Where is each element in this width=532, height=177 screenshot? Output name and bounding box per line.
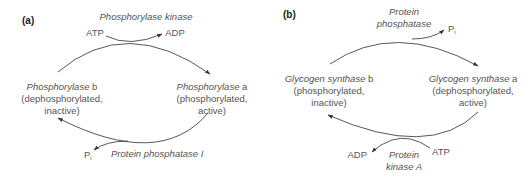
deactivation-arrow — [58, 113, 208, 143]
glycogen-synthase-b-state: (phosphorylated, — [294, 85, 365, 96]
atp-adp-arrow — [106, 34, 162, 42]
activation-arrow-b — [330, 42, 478, 66]
atp-label-a: ATP — [86, 27, 104, 38]
pi-label-b: Pi — [448, 23, 456, 35]
protein-kinase-a-label-line1: Protein — [389, 149, 419, 160]
panel-b-label: (b) — [283, 9, 296, 20]
phosphorylase-b-activity: inactive) — [44, 105, 79, 116]
glycogen-synthase-a-activity: active) — [459, 97, 487, 108]
panel-a: (a) Phosphorylase kinase ATP ADP Phospho… — [21, 11, 248, 161]
protein-phosphatase-label-line1: Protein — [389, 6, 419, 17]
diagram-stage: (a) Phosphorylase kinase ATP ADP Phospho… — [0, 0, 532, 177]
adp-label-a: ADP — [165, 27, 185, 38]
phosphorylase-kinase-label: Phosphorylase kinase — [100, 11, 193, 22]
panel-a-label: (a) — [22, 15, 34, 26]
pi-release-arrow-b — [412, 30, 444, 39]
phosphorylase-a-name: Phosphorylase a — [177, 81, 248, 92]
glycogen-regulation-diagram: (a) Phosphorylase kinase ATP ADP Phospho… — [0, 0, 532, 177]
glycogen-synthase-b-name: Glycogen synthase b — [285, 73, 374, 84]
phosphorylase-a-state: (phosphorylated, — [177, 93, 248, 104]
protein-phosphatase-label-line2: phosphatase — [376, 18, 431, 29]
phosphorylase-b-name: Phosphorylase b — [27, 81, 98, 92]
glycogen-synthase-a-name: Glycogen synthase a — [429, 73, 518, 84]
phosphorylase-b-state: (dephosphorylated, — [21, 93, 102, 104]
protein-kinase-a-label-line2: kinase A — [386, 161, 422, 172]
phosphorylase-a-activity: active) — [198, 105, 226, 116]
pi-label-a: Pi — [84, 149, 92, 161]
atp-label-b: ATP — [432, 146, 450, 157]
activation-arrow — [58, 43, 210, 74]
glycogen-synthase-b-activity: inactive) — [311, 97, 346, 108]
glycogen-synthase-a-state: (dephosphorylated, — [432, 85, 513, 96]
protein-phosphatase-1-label: Protein phosphatase I — [111, 148, 204, 159]
panel-b: (b) Protein phosphatase Pi Glycogen synt… — [283, 6, 518, 172]
adp-label-b: ADP — [347, 149, 367, 160]
deactivation-arrow-b — [328, 112, 478, 137]
